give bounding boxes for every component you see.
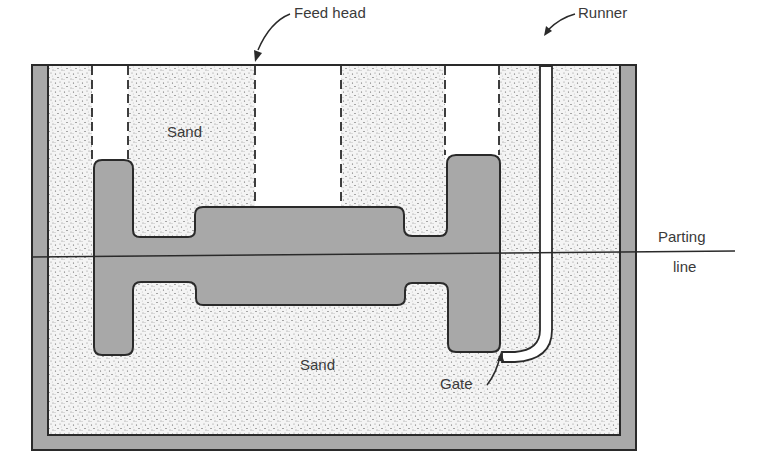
label-line: line xyxy=(673,258,696,275)
label-feed-head: Feed head xyxy=(294,4,366,21)
feed-head xyxy=(255,66,341,211)
right-riser xyxy=(445,66,499,161)
label-parting: Parting xyxy=(658,228,706,245)
left-riser xyxy=(92,66,128,166)
mold-diagram xyxy=(0,0,762,471)
label-runner: Runner xyxy=(578,4,627,21)
label-sand-bottom: Sand xyxy=(300,356,335,373)
label-sand-top: Sand xyxy=(167,123,202,140)
label-gate: Gate xyxy=(440,375,473,392)
